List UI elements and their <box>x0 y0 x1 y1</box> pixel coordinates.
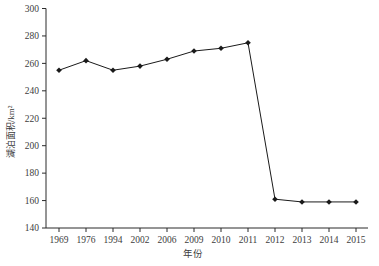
x-tick-label: 1969 <box>50 235 69 245</box>
y-tick-label: 280 <box>25 31 40 41</box>
y-tick-label: 220 <box>25 114 40 124</box>
data-point <box>299 199 305 205</box>
y-tick-label: 160 <box>25 196 40 206</box>
chart-canvas: 1401601802002202402602803001969197619942… <box>0 0 379 266</box>
x-tick-label: 1976 <box>77 235 96 245</box>
data-point <box>164 56 170 62</box>
data-point <box>353 199 359 205</box>
x-tick-label: 2010 <box>212 235 231 245</box>
data-point <box>110 67 116 73</box>
data-point <box>56 67 62 73</box>
data-point <box>272 196 278 202</box>
data-point <box>137 63 143 69</box>
y-tick-label: 140 <box>25 223 40 233</box>
y-tick-label: 260 <box>25 59 40 69</box>
x-tick-label: 2014 <box>320 235 339 245</box>
y-tick-label: 200 <box>25 141 40 151</box>
line-chart-figure: 湖泊面积/km² 1401601802002202402602803001969… <box>0 0 379 266</box>
y-tick-label: 300 <box>25 4 40 14</box>
data-point <box>326 199 332 205</box>
line-series <box>59 43 356 202</box>
x-tick-label: 2013 <box>293 235 312 245</box>
x-tick-label: 2012 <box>266 235 285 245</box>
x-tick-label: 2011 <box>239 235 258 245</box>
x-tick-label: 2009 <box>185 235 204 245</box>
data-point <box>83 58 89 64</box>
x-tick-label: 2002 <box>131 235 150 245</box>
y-tick-label: 180 <box>25 168 40 178</box>
y-tick-label: 240 <box>25 86 40 96</box>
x-tick-label: 2015 <box>347 235 366 245</box>
data-point <box>191 48 197 54</box>
x-tick-label: 2006 <box>158 235 177 245</box>
x-axis-title: 年份 <box>168 246 218 260</box>
x-tick-label: 1994 <box>104 235 123 245</box>
data-point <box>218 45 224 51</box>
data-point <box>245 40 251 46</box>
